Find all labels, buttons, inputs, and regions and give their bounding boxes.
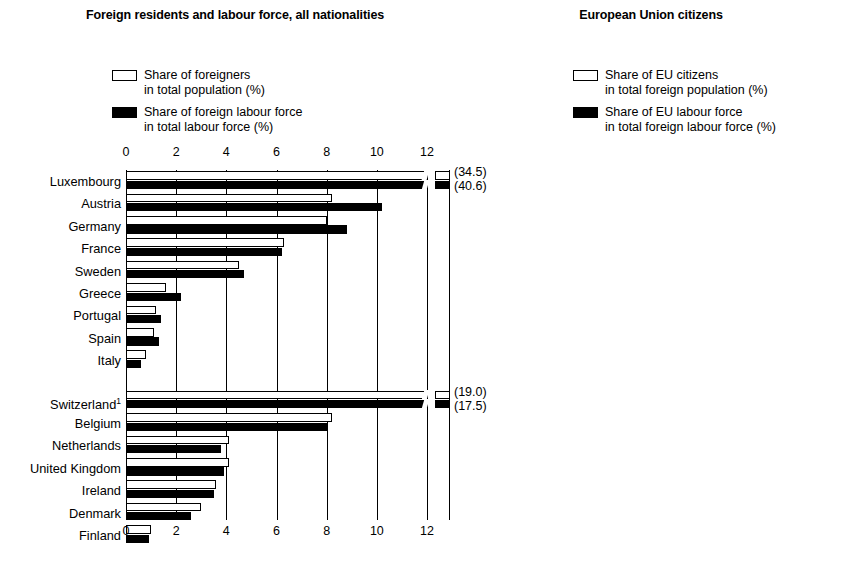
category-label: Germany bbox=[68, 216, 121, 237]
category-label: Netherlands bbox=[52, 435, 121, 456]
chart-row: Austria bbox=[126, 192, 427, 214]
bar-open bbox=[126, 171, 427, 180]
chart-row: Germany bbox=[126, 215, 427, 237]
bar-filled bbox=[126, 337, 159, 345]
bar-open bbox=[126, 458, 229, 467]
chart-row: Netherlands bbox=[126, 434, 427, 456]
bar-open bbox=[126, 503, 201, 512]
category-label: Switzerland1 bbox=[50, 391, 121, 415]
axis-tick-label: 4 bbox=[206, 145, 246, 159]
axis-tick-label: 10 bbox=[357, 524, 397, 538]
chart-row: Greece bbox=[126, 282, 427, 304]
axis-tick-label: 10 bbox=[357, 145, 397, 159]
bar-filled bbox=[126, 490, 214, 498]
legend-item: Share of foreigners in total population … bbox=[112, 68, 302, 97]
category-label: Belgium bbox=[75, 413, 121, 434]
chart-row: France bbox=[126, 237, 427, 259]
bar-open bbox=[126, 480, 216, 489]
axis-break-gap bbox=[422, 399, 430, 409]
axis-tick-label: 8 bbox=[307, 145, 347, 159]
axis-tick-label: 0 bbox=[106, 524, 146, 538]
bar-open bbox=[126, 306, 156, 315]
left-axis-top: 024681012 bbox=[126, 145, 427, 163]
chart-row: Spain bbox=[126, 327, 427, 349]
bar-filled bbox=[126, 293, 181, 301]
bar-open bbox=[126, 194, 332, 203]
bar-open bbox=[126, 436, 229, 445]
category-label: Spain bbox=[88, 328, 121, 349]
axis-tick-label: 2 bbox=[156, 524, 196, 538]
chart-row: Luxembourg(34.5)(40.6) bbox=[126, 170, 427, 192]
legend-item: Share of foreign labour force in total l… bbox=[112, 105, 302, 134]
left-chart-panel: Foreign residents and labour force, all … bbox=[0, 0, 440, 581]
left-plot-area: Luxembourg(34.5)(40.6)AustriaGermanyFran… bbox=[126, 170, 427, 520]
bar-open bbox=[126, 391, 427, 400]
category-label: Italy bbox=[98, 350, 121, 371]
chart-row: Ireland bbox=[126, 479, 427, 501]
axis-tick-label: 6 bbox=[257, 145, 297, 159]
bar-filled bbox=[126, 400, 427, 408]
chart-row: Portugal bbox=[126, 304, 427, 326]
legend-label: Share of EU labour force in total foreig… bbox=[605, 105, 776, 134]
bar-open bbox=[126, 413, 332, 422]
axis-break-gap bbox=[422, 170, 430, 180]
left-chart-title: Foreign residents and labour force, all … bbox=[60, 8, 410, 23]
category-label: Luxembourg bbox=[50, 171, 121, 192]
legend-item: Share of EU citizens in total foreign po… bbox=[573, 68, 776, 97]
legend-label: Share of EU citizens in total foreign po… bbox=[605, 68, 768, 97]
chart-row: Switzerland1(19.0)(17.5) bbox=[126, 390, 427, 412]
category-label: Greece bbox=[79, 283, 121, 304]
bar-open bbox=[126, 261, 239, 270]
bar-filled bbox=[126, 512, 191, 520]
category-label: France bbox=[81, 238, 121, 259]
legend-swatch-open-icon bbox=[112, 70, 137, 81]
bar-filled bbox=[126, 315, 161, 323]
axis-tick-label: 6 bbox=[257, 524, 297, 538]
axis-tick-label: 2 bbox=[156, 145, 196, 159]
bar-open bbox=[126, 238, 284, 247]
category-label: Sweden bbox=[75, 261, 121, 282]
right-chart-title: European Union citizens bbox=[470, 8, 832, 23]
category-label: United Kingdom bbox=[30, 458, 121, 479]
chart-row: United Kingdom bbox=[126, 457, 427, 479]
bar-open bbox=[126, 350, 146, 359]
category-label: Ireland bbox=[82, 480, 121, 501]
bar-filled bbox=[126, 423, 327, 431]
bar-open bbox=[126, 328, 154, 337]
legend-swatch-open-icon bbox=[573, 70, 598, 81]
axis-tick-label: 8 bbox=[307, 524, 347, 538]
chart-row: Denmark bbox=[126, 502, 427, 524]
legend-swatch-filled-icon bbox=[573, 107, 598, 118]
gridline bbox=[427, 170, 428, 520]
left-chart-legend: Share of foreigners in total population … bbox=[112, 68, 302, 142]
legend-item: Share of EU labour force in total foreig… bbox=[573, 105, 776, 134]
category-label: Portugal bbox=[73, 305, 121, 326]
chart-row: Sweden bbox=[126, 260, 427, 282]
axis-tick-label: 4 bbox=[206, 524, 246, 538]
axis-tick-label: 0 bbox=[106, 145, 146, 159]
category-label: Denmark bbox=[69, 503, 121, 524]
category-label: Austria bbox=[81, 193, 121, 214]
bar-filled bbox=[126, 360, 141, 368]
bar-filled bbox=[126, 225, 347, 233]
chart-row: Italy bbox=[126, 349, 427, 371]
legend-swatch-filled-icon bbox=[112, 107, 137, 118]
bar-filled bbox=[126, 248, 282, 256]
bar-filled bbox=[126, 270, 244, 278]
right-chart-panel: European Union citizens Share of EU citi… bbox=[430, 0, 862, 581]
chart-row: Belgium bbox=[126, 412, 427, 434]
bar-filled bbox=[126, 467, 224, 475]
bar-filled bbox=[126, 203, 382, 211]
legend-label: Share of foreign labour force in total l… bbox=[144, 105, 302, 134]
bar-filled bbox=[126, 445, 221, 453]
right-chart-legend: Share of EU citizens in total foreign po… bbox=[573, 68, 776, 142]
bar-open bbox=[126, 283, 166, 292]
bar-filled bbox=[126, 181, 427, 189]
bar-open bbox=[126, 216, 327, 225]
legend-label: Share of foreigners in total population … bbox=[144, 68, 265, 97]
left-axis-bottom: 024681012 bbox=[126, 524, 427, 542]
